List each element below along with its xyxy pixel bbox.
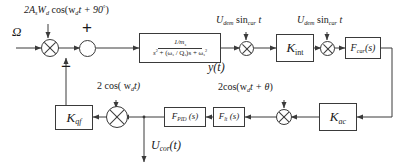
- carrier-2-t: t: [337, 14, 342, 25]
- f-pid-label: FPID (s): [172, 112, 199, 121]
- k-ac-base: K: [330, 109, 339, 124]
- signal-u-cor: Ucor(t): [151, 138, 181, 153]
- drive-force-paren: ): [105, 4, 108, 15]
- omega-symbol: Ω: [12, 24, 21, 39]
- plant-den-q: / Q: [174, 49, 185, 57]
- block-diagram: Ω 2AsWd cos(wdt + 90°) + − 1/ms s2 + (ωs…: [0, 0, 404, 168]
- k-ac-sub: ac: [339, 117, 347, 126]
- k-int-base: K: [286, 40, 295, 55]
- plant-den-s-exp: 2: [156, 48, 158, 53]
- drive-force-sub-s: s: [35, 9, 37, 16]
- plant-numerator: 1/ms: [158, 39, 202, 48]
- demod-mixer-phase: [276, 109, 292, 125]
- drive-force-w: W: [38, 4, 46, 15]
- plant-den-omega-sub: s: [172, 52, 174, 57]
- phase-demod-sub: d: [247, 86, 250, 93]
- minus-glyph: −: [61, 57, 71, 76]
- plant-denominator: s2 + (ωs / Qs)s + ωs2: [153, 49, 207, 57]
- drive-force-omega-sub: d: [75, 9, 78, 16]
- f-pid-arg: (s): [187, 111, 199, 121]
- block-f-car: Fcar(s): [345, 37, 381, 59]
- drive-demod-sub: d: [131, 85, 134, 92]
- block-k-int: Kint: [276, 34, 314, 62]
- k-qf-base: K: [67, 110, 76, 125]
- plant-den-tail: )s + ω: [186, 49, 203, 57]
- phase-demod-mid: t +: [250, 81, 265, 92]
- wire-layer: [0, 0, 404, 168]
- plant-num-sub: s: [184, 42, 186, 47]
- block-k-ac: Kac: [319, 103, 357, 131]
- f-car-sub: car: [357, 47, 365, 54]
- label-demod-phase: 2cos(wdt + θ): [218, 81, 273, 92]
- carrier-2-sin: sin: [315, 14, 329, 25]
- u-cor-base: U: [151, 138, 160, 152]
- block-f-lt: Flt (s): [213, 107, 245, 127]
- block-k-qf: Kqf: [55, 105, 93, 130]
- k-qf-sub: qf: [75, 117, 81, 126]
- k-ac-label: Kac: [330, 110, 346, 124]
- carrier-1-sub2: car: [248, 19, 256, 26]
- k-int-label: Kint: [286, 41, 303, 55]
- demod-mixer-carrier-1: [239, 41, 254, 56]
- carrier-1-t: t: [256, 14, 261, 25]
- u-cor-sub: cor: [160, 144, 170, 153]
- plant-num-text: 1/m: [174, 38, 185, 46]
- plant-den-tail-exp: 2: [205, 48, 207, 53]
- signal-y-of-t: y(t): [208, 60, 225, 75]
- drive-force-sub-d: d: [46, 9, 49, 16]
- f-lt-label: Flt (s): [219, 112, 239, 121]
- carrier-2-sub: dem: [304, 19, 314, 26]
- plus-sign: +: [82, 19, 92, 36]
- u-cor-tail: (t): [170, 138, 181, 152]
- f-lt-sub: lt: [224, 116, 227, 122]
- label-demod-drive: 2 cos( wdt): [97, 80, 140, 91]
- label-demod-carrier-2: Udem sincar t: [297, 14, 342, 25]
- input-mixer: [41, 39, 59, 57]
- f-car-arg: (s): [365, 42, 376, 53]
- y-of-t-text: y(t): [208, 60, 225, 74]
- phase-demod-cos: 2cos(w: [218, 81, 247, 92]
- phase-demod-close: ): [269, 81, 272, 92]
- plant-den-q-sub: s: [184, 52, 186, 57]
- label-demod-carrier-1: Udem sincar t: [216, 14, 261, 25]
- demod-mixer-drive: [106, 106, 128, 128]
- minus-sign: −: [61, 58, 71, 75]
- drive-force-phase: t + 90: [78, 4, 103, 15]
- drive-demod-tail: t): [134, 80, 140, 91]
- carrier-1-sin: sin: [234, 14, 248, 25]
- k-int-sub: int: [295, 48, 304, 57]
- drive-force-amplitude: 2A: [24, 4, 35, 15]
- f-lt-arg: (s): [227, 111, 239, 121]
- drive-force-label: 2AsWd cos(wdt + 90°): [24, 4, 109, 15]
- plant-den-omega: + (ω: [158, 49, 172, 57]
- plus-glyph: +: [82, 18, 92, 37]
- drive-demod-cos: 2 cos( w: [97, 80, 131, 91]
- carrier-1-sub: dem: [223, 19, 233, 26]
- block-f-pid: FPID (s): [164, 107, 206, 127]
- f-car-base: F: [351, 42, 357, 53]
- f-car-label: Fcar(s): [351, 43, 376, 54]
- input-omega-label: Ω: [12, 24, 21, 40]
- summing-junction: [79, 40, 96, 57]
- demod-mixer-carrier-2: [320, 41, 335, 56]
- block-plant-transfer-function: 1/ms s2 + (ωs / Qs)s + ωs2: [139, 33, 221, 63]
- drive-force-cos: cos(w: [49, 4, 75, 15]
- k-qf-label: Kqf: [67, 111, 82, 125]
- f-pid-sub: PID: [177, 116, 186, 122]
- carrier-2-sub2: car: [329, 19, 337, 26]
